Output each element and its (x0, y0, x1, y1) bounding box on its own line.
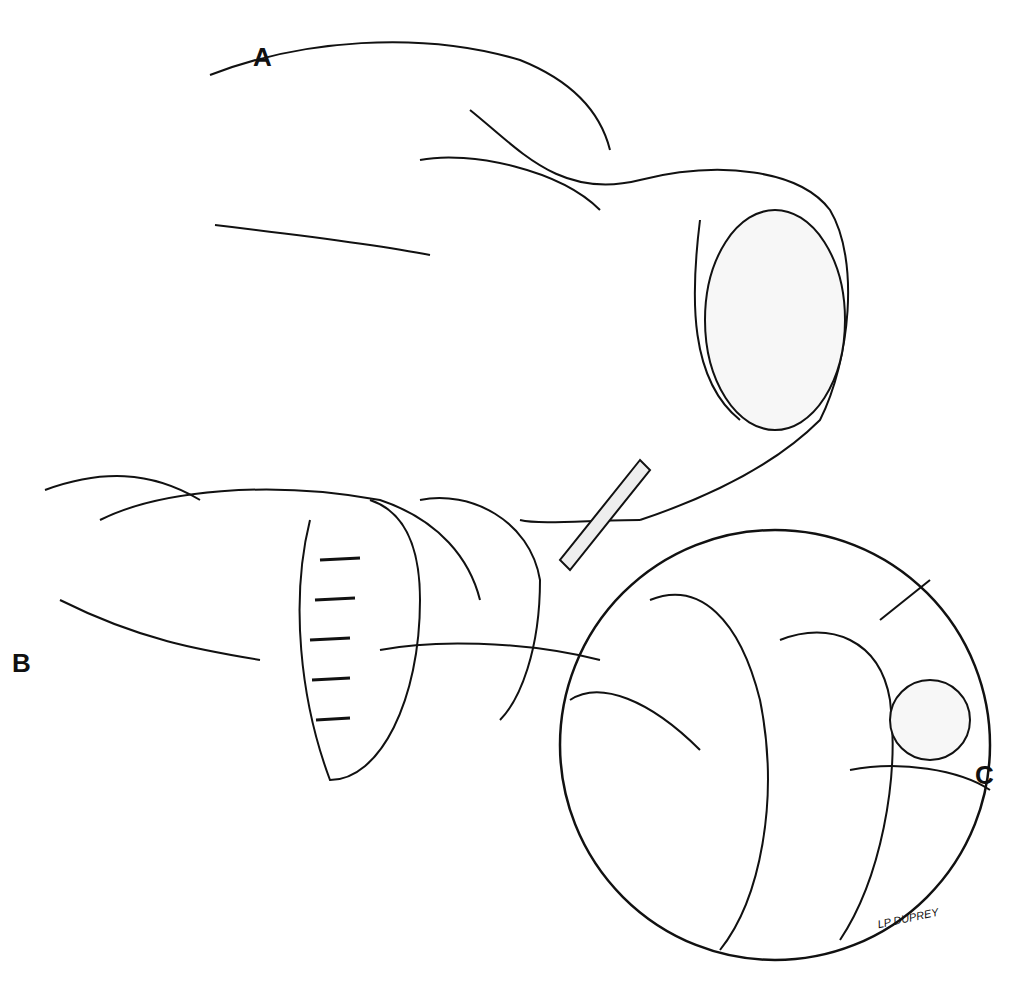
illustration (0, 0, 1017, 986)
panel-b-drawing (45, 476, 600, 780)
panel-c-drawing (560, 530, 990, 960)
